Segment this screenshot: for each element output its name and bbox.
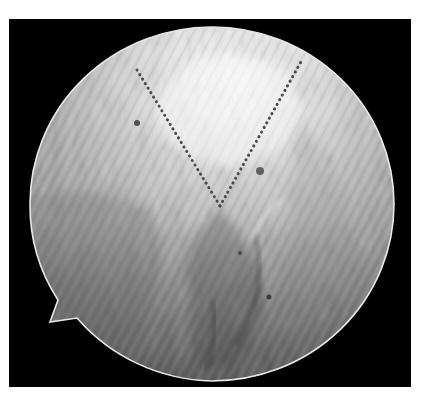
vignette xyxy=(0,0,424,401)
arthroscopic-view xyxy=(0,0,424,401)
scope-field xyxy=(0,0,424,401)
